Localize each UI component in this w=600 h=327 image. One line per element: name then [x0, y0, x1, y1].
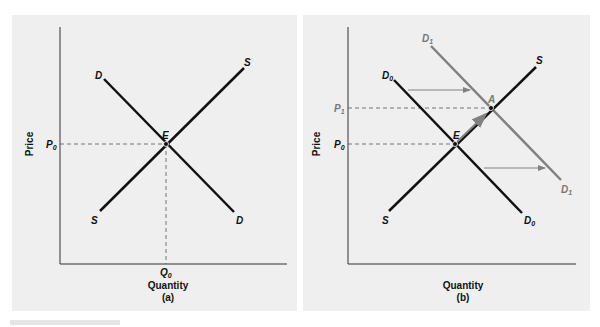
panel-label-a: (a) [162, 292, 174, 303]
chart-b: D1 D0 S A E D1 S D0 P1 P0 Quantity (b) P… [311, 27, 576, 303]
label-q0-a: Q0 [160, 267, 172, 279]
supply-curve-a [100, 68, 244, 211]
supply-demand-diagrams: D S E S D P0 Q0 Quantity (a) Price D1 D0… [0, 0, 600, 327]
label-p0-a: P0 [46, 139, 57, 151]
label-p0-b: P0 [334, 139, 345, 151]
chart-a: D S E S D P0 Q0 Quantity (a) Price [24, 27, 287, 303]
label-p1-b: P1 [334, 103, 345, 115]
label-d0-top-b: D0 [382, 70, 393, 82]
x-axis-title-a: Quantity [148, 280, 189, 291]
label-e-a: E [162, 130, 169, 141]
y-axis-title-a: Price [24, 131, 35, 156]
supply-curve-b [389, 67, 536, 211]
label-a-b: A [487, 94, 495, 105]
panel-label-b: (b) [457, 292, 470, 303]
label-d0-bottom-b: D0 [524, 215, 535, 227]
label-s-top-b: S [536, 55, 543, 66]
label-s-top-a: S [244, 57, 251, 68]
label-s-bottom-a: S [91, 215, 98, 226]
label-d-top-a: D [95, 70, 102, 81]
equilibrium-point-a-b [489, 106, 494, 111]
label-s-bottom-b: S [382, 215, 389, 226]
label-e-b: E [453, 130, 460, 141]
x-axis-title-b: Quantity [443, 280, 484, 291]
movement-arrow-e-to-a [457, 114, 486, 142]
label-d1-top-b: D1 [422, 33, 433, 45]
equilibrium-point-e-b [453, 142, 458, 147]
label-d1-bottom-b: D1 [561, 184, 572, 196]
demand-curve-d1-b [431, 46, 561, 180]
y-axis-title-b: Price [311, 131, 322, 156]
label-d-bottom-a: D [236, 215, 243, 226]
equilibrium-point-a [164, 142, 169, 147]
